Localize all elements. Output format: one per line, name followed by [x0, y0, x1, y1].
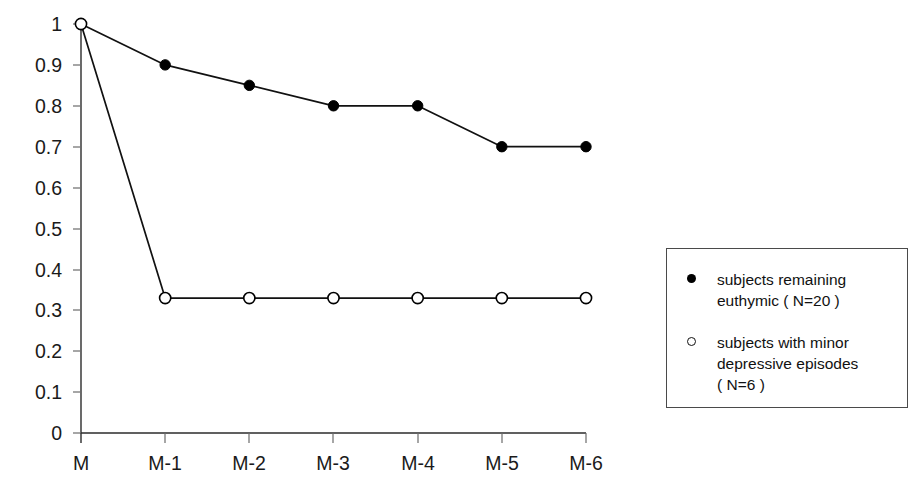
x-tick-label: M-1 [148, 452, 182, 474]
data-point [160, 60, 170, 70]
data-point [412, 292, 423, 303]
data-point [244, 292, 255, 303]
x-tick-labels: M M-1 M-2 M-3 M-4 M-5 M-6 [73, 452, 603, 474]
data-point [75, 18, 86, 29]
data-point [497, 142, 507, 152]
legend-item-depressive: subjects with minor depressive episodes … [687, 332, 858, 395]
x-tick-label: M-2 [232, 452, 266, 474]
x-tick-label: M-4 [401, 452, 435, 474]
x-tick-label: M-3 [316, 452, 350, 474]
x-axis-group: M M-1 M-2 M-3 M-4 M-5 M-6 [73, 433, 603, 474]
y-tick-label: 0.2 [35, 340, 62, 362]
data-point [244, 80, 254, 90]
data-point [412, 101, 422, 111]
x-tick-label: M [73, 452, 89, 474]
data-point [328, 292, 339, 303]
data-point [581, 142, 591, 152]
line-chart: 1 0.9 0.8 0.7 0.6 0.5 0.4 0.3 0.2 0.1 0 [0, 0, 924, 483]
y-tick-label: 0.9 [35, 54, 62, 76]
data-point [328, 101, 338, 111]
y-tick-labels: 1 0.9 0.8 0.7 0.6 0.5 0.4 0.3 0.2 0.1 0 [35, 13, 62, 444]
y-tick-label: 1 [51, 13, 62, 35]
chart-legend: subjects remaining euthymic ( N=20 ) sub… [666, 248, 908, 408]
series-depressive [75, 18, 591, 303]
y-tick-label: 0.5 [35, 218, 62, 240]
y-tick-label: 0.3 [35, 299, 62, 321]
data-point [580, 292, 591, 303]
open-circle-icon [687, 332, 717, 346]
series-line-depressive [81, 24, 586, 298]
y-tick-label: 0.1 [35, 381, 62, 403]
series-markers-depressive [75, 18, 591, 303]
filled-circle-icon [687, 269, 717, 283]
x-tick-marks [81, 433, 586, 443]
data-point [160, 292, 171, 303]
legend-label-depressive: subjects with minor depressive episodes … [717, 332, 858, 395]
x-tick-label: M-5 [485, 452, 519, 474]
series-euthymic [76, 19, 591, 152]
y-tick-label: 0 [51, 422, 62, 444]
data-point [496, 292, 507, 303]
chart-page: 1 0.9 0.8 0.7 0.6 0.5 0.4 0.3 0.2 0.1 0 [0, 0, 924, 483]
series-markers-euthymic [76, 19, 591, 152]
y-tick-marks [73, 24, 81, 433]
y-tick-label: 0.8 [35, 95, 62, 117]
y-tick-label: 0.4 [35, 259, 62, 281]
x-tick-label: M-6 [569, 452, 603, 474]
y-axis-group: 1 0.9 0.8 0.7 0.6 0.5 0.4 0.3 0.2 0.1 0 [35, 13, 81, 444]
legend-label-euthymic: subjects remaining euthymic ( N=20 ) [717, 269, 846, 311]
legend-item-euthymic: subjects remaining euthymic ( N=20 ) [687, 269, 846, 311]
y-tick-label: 0.6 [35, 177, 62, 199]
y-tick-label: 0.7 [35, 136, 62, 158]
series-line-euthymic [81, 24, 586, 147]
